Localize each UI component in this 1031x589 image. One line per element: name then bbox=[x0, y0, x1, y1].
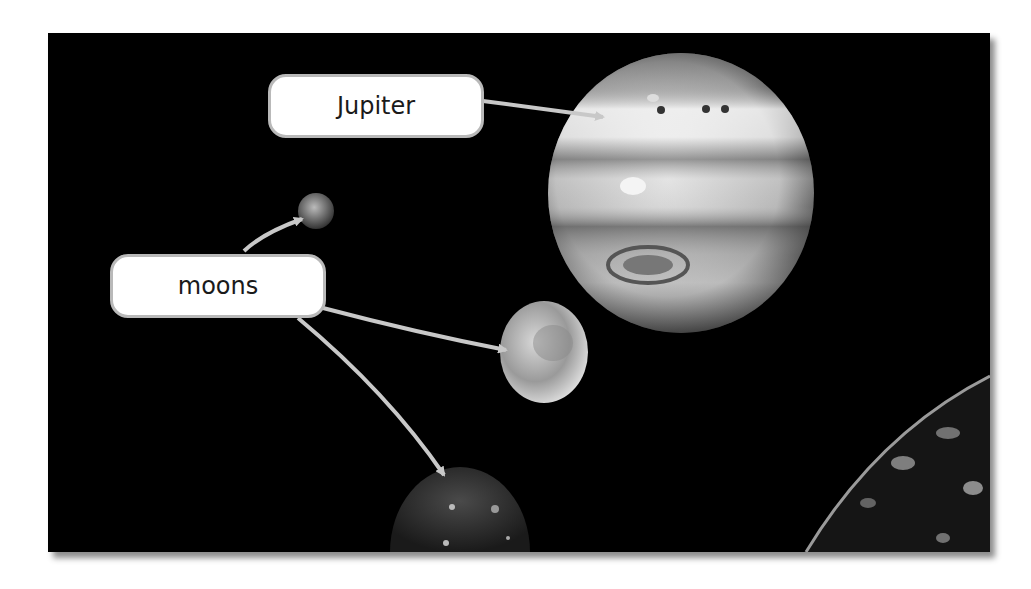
small-moon bbox=[298, 193, 334, 229]
jupiter-planet bbox=[548, 53, 818, 333]
moons-label: moons bbox=[110, 254, 326, 318]
arrow-small-moon bbox=[244, 219, 302, 251]
jupiter-label: Jupiter bbox=[268, 74, 484, 138]
jupiter-label-text: Jupiter bbox=[337, 92, 415, 120]
lower-moon bbox=[390, 467, 530, 552]
medium-moon bbox=[500, 301, 588, 403]
arrow-medium-moon bbox=[323, 308, 506, 350]
large-moon-corner bbox=[806, 376, 990, 552]
moons-label-text: moons bbox=[178, 272, 258, 300]
space-photo-panel: Jupiter moons bbox=[48, 33, 990, 552]
arrow-lower-moon bbox=[298, 318, 444, 475]
